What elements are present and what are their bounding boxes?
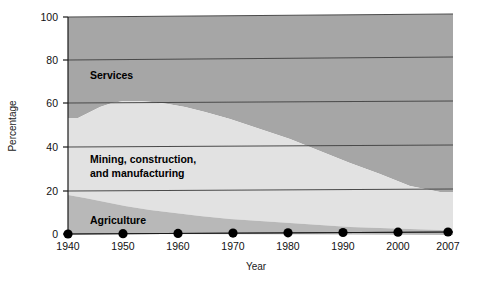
y-tick-label-20: 20	[46, 185, 58, 197]
x-tick-label-1950: 1950	[111, 240, 135, 252]
data-point-1960	[173, 229, 182, 238]
band-label-services: Services	[90, 69, 133, 81]
y-tick-label-0: 0	[52, 228, 58, 240]
chart-canvas: 100 80 60 40 20 0 1940 1950 1960 1970 19…	[0, 0, 484, 287]
x-tick-label-1980: 1980	[276, 240, 300, 252]
data-point-1980	[283, 228, 292, 237]
y-tick-labels: 100 80 60 40 20 0	[40, 11, 58, 240]
data-point-1990	[338, 228, 347, 237]
data-point-1950	[118, 229, 127, 238]
data-point-1940	[63, 229, 72, 238]
x-tick-label-1970: 1970	[221, 240, 245, 252]
y-tick-marks	[63, 17, 68, 234]
x-tick-label-1990: 1990	[331, 240, 355, 252]
x-tick-label-2000: 2000	[386, 240, 410, 252]
x-axis-title: Year	[246, 261, 267, 272]
x-tick-label-1960: 1960	[166, 240, 190, 252]
x-tick-labels: 1940 1950 1960 1970 1980 1990 2000 2007	[56, 240, 460, 252]
chart-bands	[68, 14, 453, 235]
band-label-mining-line2: and manufacturing	[90, 167, 185, 179]
y-tick-label-60: 60	[46, 97, 58, 109]
y-axis-title: Percentage	[7, 100, 18, 152]
x-tick-label-2007: 2007	[436, 240, 460, 252]
data-point-1970	[228, 229, 237, 238]
x-tick-label-1940: 1940	[56, 240, 80, 252]
data-point-2000	[393, 228, 402, 237]
y-tick-label-80: 80	[46, 54, 58, 66]
y-tick-label-100: 100	[40, 11, 58, 23]
data-point-2007	[443, 227, 452, 236]
y-tick-label-40: 40	[46, 141, 58, 153]
stacked-area-chart: 100 80 60 40 20 0 1940 1950 1960 1970 19…	[0, 0, 484, 287]
band-label-agriculture: Agriculture	[90, 214, 146, 226]
band-label-mining-line1: Mining, construction,	[90, 153, 196, 165]
